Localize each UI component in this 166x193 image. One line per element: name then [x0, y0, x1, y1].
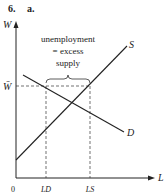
supply-label: S: [129, 39, 134, 50]
question-part: a.: [27, 3, 35, 14]
origin-label: 0: [11, 185, 15, 193]
x-axis-arrow-icon: [148, 176, 155, 181]
annotation-line-2: = excess: [53, 46, 84, 56]
y-axis-label: W: [3, 19, 13, 30]
annotation-line-1: unemployment: [41, 34, 95, 44]
annotation-line-3: supply: [56, 58, 81, 68]
x-axis-label: L: [157, 172, 164, 183]
ld-label: LD: [40, 185, 51, 193]
brace-icon: [46, 75, 90, 83]
demand-curve: [23, 75, 124, 132]
ls-label: LS: [85, 185, 94, 193]
labor-market-diagram: 6. a. W L 0 W̄ S D unemployment = excess…: [0, 0, 166, 193]
wage-label: W̄: [3, 81, 13, 92]
question-number: 6.: [8, 3, 16, 14]
y-axis-arrow-icon: [14, 21, 19, 28]
demand-label: D: [126, 127, 135, 138]
